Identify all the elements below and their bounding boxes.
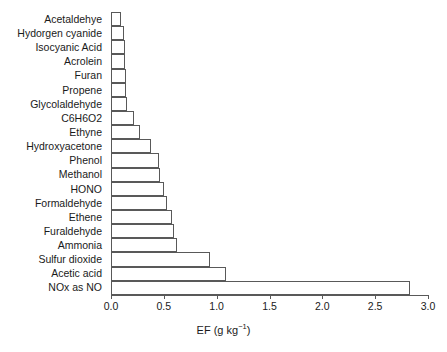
bar (111, 252, 210, 266)
category-label: Acrolein (0, 54, 107, 68)
bar (111, 125, 140, 139)
bar (111, 153, 159, 167)
bar-row (111, 69, 428, 83)
emission-factor-bar-chart: AcetaldehyeHydorgen cyanideIsocyanic Aci… (0, 0, 447, 352)
bar (111, 182, 164, 196)
x-axis-tick-label: 2.0 (315, 300, 330, 312)
category-label: Acetic acid (0, 267, 107, 281)
x-axis-tick-label: 3.0 (421, 300, 436, 312)
category-label: Methanol (0, 168, 107, 182)
category-label: Propene (0, 83, 107, 97)
x-axis-tick (428, 295, 429, 299)
category-label: Sulfur dioxide (0, 252, 107, 266)
x-axis-tick (270, 295, 271, 299)
x-axis-tick-label: 1.0 (209, 300, 224, 312)
bar (111, 168, 160, 182)
category-label: Phenol (0, 153, 107, 167)
bar (111, 238, 177, 252)
x-axis-tick-label: 0.0 (104, 300, 119, 312)
category-label: HONO (0, 182, 107, 196)
bar-row (111, 238, 428, 252)
category-label: Formaldehyde (0, 196, 107, 210)
bar (111, 26, 124, 40)
bar (111, 210, 172, 224)
x-axis-tick (164, 295, 165, 299)
plot-area (111, 12, 428, 295)
category-label: Isocyanic Acid (0, 40, 107, 54)
bar-row (111, 12, 428, 26)
bar-row (111, 111, 428, 125)
bar-row (111, 196, 428, 210)
bar-row (111, 83, 428, 97)
category-label: C6H6O2 (0, 111, 107, 125)
category-label: NOx as NO (0, 281, 107, 295)
x-axis-title-close: ) (247, 324, 251, 336)
bar-row (111, 139, 428, 153)
category-label: Ammonia (0, 238, 107, 252)
bar (111, 97, 127, 111)
bar-row (111, 168, 428, 182)
bar-row (111, 125, 428, 139)
category-label: Ethyne (0, 125, 107, 139)
x-axis-title-exponent: −1 (238, 322, 247, 331)
bar-row (111, 54, 428, 68)
bar-row (111, 252, 428, 266)
bar-row (111, 224, 428, 238)
category-label: Glycolaldehyde (0, 97, 107, 111)
category-label: Ethene (0, 210, 107, 224)
bar-row (111, 267, 428, 281)
bar-row (111, 153, 428, 167)
bar (111, 196, 167, 210)
bar (111, 12, 121, 26)
category-label: Furan (0, 69, 107, 83)
bar-row (111, 26, 428, 40)
category-axis-labels: AcetaldehyeHydorgen cyanideIsocyanic Aci… (0, 12, 107, 295)
bar-row (111, 210, 428, 224)
bar-row (111, 281, 428, 295)
bar (111, 111, 134, 125)
category-label: Hydroxyacetone (0, 139, 107, 153)
x-axis-tick (217, 295, 218, 299)
bar (111, 139, 151, 153)
x-axis-tick (111, 295, 112, 299)
bar (111, 69, 126, 83)
bar-row (111, 182, 428, 196)
bar (111, 267, 226, 281)
category-label: Acetaldehye (0, 12, 107, 26)
x-axis-tick-label: 1.5 (262, 300, 277, 312)
x-axis-title-base: EF (g kg (197, 324, 239, 336)
x-axis-tick-label: 2.5 (368, 300, 383, 312)
bar-row (111, 97, 428, 111)
bar (111, 83, 126, 97)
bar (111, 54, 125, 68)
bar (111, 281, 410, 295)
category-label: Hydorgen cyanide (0, 26, 107, 40)
x-axis-tick (322, 295, 323, 299)
x-axis-tick-label: 0.5 (157, 300, 172, 312)
bar (111, 224, 174, 238)
bar (111, 40, 125, 54)
x-axis-title: EF (g kg−1) (0, 322, 447, 336)
bar-row (111, 40, 428, 54)
x-axis-tick (375, 295, 376, 299)
category-label: Furaldehyde (0, 224, 107, 238)
